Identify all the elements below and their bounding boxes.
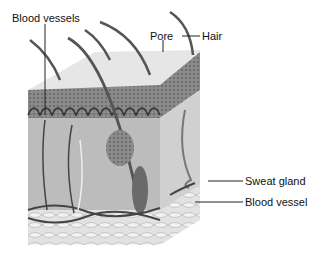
label-blood-vessels: Blood vessels xyxy=(12,12,80,24)
label-sweat-gland: Sweat gland xyxy=(245,175,306,187)
sebaceous-gland xyxy=(106,130,134,166)
epidermis-front xyxy=(28,85,160,118)
label-blood-vessel: Blood vessel xyxy=(245,196,307,208)
hair-5 xyxy=(170,12,193,55)
label-hair: Hair xyxy=(202,30,222,42)
label-pore: Pore xyxy=(150,30,173,42)
hair-follicle xyxy=(132,166,148,214)
